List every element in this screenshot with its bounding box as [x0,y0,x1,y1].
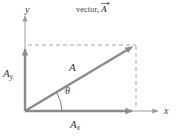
figure-title-prefix: vector, [76,4,99,14]
figure-title-vector-letter: A [101,4,107,14]
vector-a-arrow [25,47,132,111]
ay-component-subscript: y [10,72,13,81]
vector-diagram-figure: vector, A y x A Ay Ax θ [0,0,180,136]
ay-component-label: Ay [3,68,13,81]
x-axis-label: x [164,106,168,116]
ax-component-letter: A [70,118,77,130]
figure-title: vector, A [76,4,107,14]
ay-component-letter: A [3,67,10,79]
figure-title-vector-symbol: A [101,4,107,14]
y-axis-label: y [25,5,29,15]
angle-theta-label: θ [65,86,70,96]
angle-arc [57,93,63,112]
vector-overarrow-icon [101,1,110,5]
vector-diagram-canvas [0,0,180,136]
ax-component-label: Ax [70,119,80,132]
ax-component-subscript: x [77,123,80,132]
vector-magnitude-label: A [69,62,76,73]
